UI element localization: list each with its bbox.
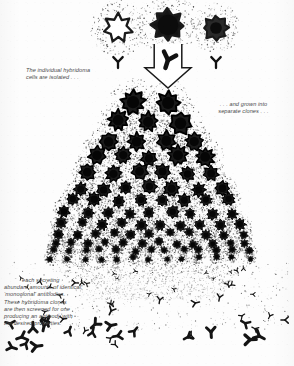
caption-each-secreting: each secretingabundant amounts of identi… — [4, 277, 112, 327]
caption-separate-clones: . . . and grown into separate clones . .… — [196, 101, 291, 115]
caption-secreting-first-line: each secreting — [4, 277, 112, 284]
caption-secreting-rest: abundant amounts of identical, ‘monoclon… — [4, 284, 83, 326]
caption-cells-isolated: The individual hybridoma cells are isola… — [26, 67, 136, 81]
figure-canvas: The individual hybridoma cells are isola… — [0, 0, 294, 366]
